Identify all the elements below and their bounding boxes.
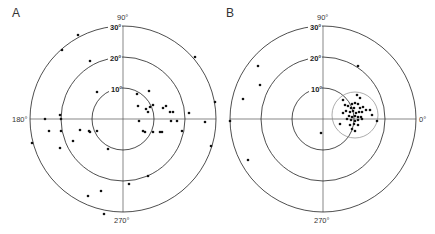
data-point (176, 120, 179, 123)
data-point (348, 115, 351, 118)
angle-label-270: 270° (114, 216, 130, 225)
data-point (259, 84, 262, 87)
data-point (136, 93, 139, 96)
data-point (137, 105, 140, 108)
data-point (362, 106, 365, 109)
data-point (371, 114, 374, 117)
data-point (165, 105, 168, 108)
data-point (89, 131, 92, 134)
data-point (357, 65, 360, 68)
data-point (347, 105, 350, 108)
data-point (358, 111, 361, 114)
data-point (369, 109, 372, 112)
data-point (229, 120, 232, 123)
data-point (349, 111, 352, 114)
data-point (77, 34, 80, 37)
data-point (96, 130, 99, 133)
data-point (44, 118, 47, 121)
angle-label-0: 0° (419, 115, 426, 124)
data-point (210, 145, 213, 148)
data-point (342, 99, 345, 102)
data-point (354, 130, 357, 133)
data-point (351, 116, 354, 119)
data-point (103, 213, 106, 216)
data-point (339, 123, 342, 126)
ring-label-10: 10° (311, 85, 322, 94)
data-point (59, 114, 62, 117)
data-point (169, 111, 172, 114)
data-point (172, 111, 175, 114)
data-point (152, 104, 155, 107)
data-point (89, 60, 92, 63)
data-point (144, 131, 147, 134)
data-point (60, 130, 63, 133)
data-point (354, 115, 357, 118)
data-point (194, 56, 197, 59)
data-point (96, 91, 99, 94)
ring-label-30: 30° (310, 23, 321, 32)
angle-label-180: 180° (12, 115, 28, 124)
data-point (353, 123, 356, 126)
data-point (61, 49, 64, 52)
data-point (107, 148, 110, 151)
data-point (356, 94, 359, 97)
data-point (128, 183, 131, 186)
data-point (357, 119, 360, 122)
data-points-a (31, 34, 217, 216)
data-point (357, 116, 360, 119)
data-point (72, 140, 75, 143)
data-point (345, 110, 348, 113)
angle-label-270: 270° (314, 216, 330, 225)
ring-label-20: 20° (310, 54, 321, 63)
data-point (350, 107, 353, 110)
ring-label-10: 10° (111, 85, 122, 94)
data-point (355, 112, 358, 115)
data-point (188, 112, 191, 115)
data-point (365, 109, 368, 112)
data-point (181, 130, 184, 133)
angle-label-90: 90° (117, 13, 128, 22)
data-point (353, 107, 356, 110)
data-point (242, 98, 245, 101)
data-point (31, 142, 34, 145)
data-point (344, 104, 347, 107)
data-point (48, 130, 51, 133)
data-point (361, 111, 364, 114)
data-point (162, 107, 165, 110)
data-point (346, 118, 349, 121)
ring-label-20: 20° (110, 54, 121, 63)
data-point (247, 159, 250, 162)
data-point (147, 175, 150, 178)
data-point (376, 120, 379, 123)
data-point (357, 103, 360, 106)
data-point (100, 190, 103, 193)
data-point (351, 128, 354, 131)
data-point (87, 195, 90, 198)
data-point (170, 120, 173, 123)
polar-plot-b: 30° 20° 10° 90° 0° 270° (229, 13, 426, 225)
data-point (59, 147, 62, 150)
data-point (349, 124, 352, 127)
data-point (214, 101, 217, 104)
data-point (204, 121, 207, 124)
data-point (257, 65, 260, 68)
data-point (138, 120, 141, 123)
data-point (145, 108, 148, 111)
data-point (148, 90, 151, 93)
data-point (152, 131, 155, 134)
data-point (350, 119, 353, 122)
data-point (351, 103, 354, 106)
data-point (357, 124, 360, 127)
data-point (149, 106, 152, 109)
data-point (60, 118, 63, 121)
data-point (361, 118, 364, 121)
polar-plots: 30° 20° 10° 90° 180° 270° 30° 20° 10° 90… (0, 0, 435, 234)
data-point (342, 112, 345, 115)
data-point (354, 102, 357, 105)
data-points-b (229, 65, 379, 162)
data-point (79, 129, 82, 132)
polar-plot-a: 30° 20° 10° 90° 180° 270° (12, 13, 216, 225)
angle-label-90: 90° (317, 13, 328, 22)
data-point (147, 111, 150, 114)
data-point (359, 97, 362, 100)
